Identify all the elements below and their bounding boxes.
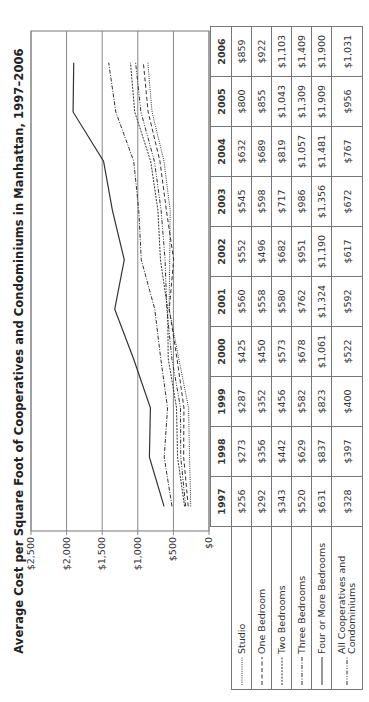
value-cell: $631	[312, 477, 332, 527]
value-cell: $560	[232, 277, 252, 327]
data-table: 1997199819992000200120022003200420052006…	[210, 26, 363, 690]
value-cell: $352	[252, 377, 272, 427]
value-cell: $356	[252, 427, 272, 477]
value-cell: $545	[232, 177, 252, 227]
value-cell: $859	[232, 27, 252, 77]
year-header: 1997	[211, 477, 232, 527]
value-cell: $1,031	[332, 27, 363, 77]
value-cell: $1,909	[312, 77, 332, 127]
legend-swatch-icon	[299, 657, 305, 685]
series-line	[130, 63, 184, 507]
series-name: All Cooperatives and Condominiums	[337, 534, 357, 654]
y-tick-label: $2,000	[61, 537, 72, 570]
legend-swatch-icon	[279, 657, 285, 685]
year-header-row: 1997199819992000200120022003200420052006	[211, 27, 232, 690]
value-cell: $1,061	[312, 327, 332, 377]
value-cell: $400	[332, 377, 363, 427]
y-tick-label: $2,500	[25, 537, 36, 570]
value-cell: $1,190	[312, 227, 332, 277]
series-name: One Bedroom	[257, 589, 267, 654]
value-cell: $1,103	[272, 27, 292, 77]
value-cell: $823	[312, 377, 332, 427]
year-header: 1999	[211, 377, 232, 427]
table-row: All Cooperatives and Condominiums$328$39…	[332, 27, 363, 690]
value-cell: $767	[332, 127, 363, 177]
y-tick-label: $1,000	[132, 537, 143, 570]
series-line	[148, 63, 191, 507]
value-cell: $1,481	[312, 127, 332, 177]
year-header: 1998	[211, 427, 232, 477]
value-cell: $522	[332, 327, 363, 377]
chart-page: Average Cost per Square Foot of Cooperat…	[0, 0, 369, 702]
value-cell: $986	[292, 177, 312, 227]
value-cell: $617	[332, 227, 363, 277]
table-corner	[211, 527, 232, 690]
year-header: 2002	[211, 227, 232, 277]
value-cell: $573	[272, 327, 292, 377]
series-legend-label: Four or More Bedrooms	[312, 527, 332, 690]
year-header: 2000	[211, 327, 232, 377]
series-legend-label: Two Bedrooms	[272, 527, 292, 690]
value-cell: $717	[272, 177, 292, 227]
value-cell: $682	[272, 227, 292, 277]
series-name: Two Bedrooms	[277, 585, 287, 654]
table-row: Two Bedrooms$343$442$456$573$580$682$717…	[272, 27, 292, 690]
value-cell: $837	[312, 427, 332, 477]
table-row: One Bedroom$292$356$352$450$558$496$598$…	[252, 27, 272, 690]
value-cell: $425	[232, 327, 252, 377]
value-cell: $672	[332, 177, 363, 227]
value-cell: $762	[292, 277, 312, 327]
value-cell: $273	[232, 427, 252, 477]
series-name: Three Bedrooms	[297, 576, 307, 654]
value-cell: $496	[252, 227, 272, 277]
legend-swatch-icon	[319, 657, 325, 685]
table-row: Four or More Bedrooms$631$837$823$1,061$…	[312, 27, 332, 690]
series-legend-label: Studio	[232, 527, 252, 690]
value-cell: $1,309	[292, 77, 312, 127]
series-legend-label: Three Bedrooms	[292, 527, 312, 690]
value-cell: $450	[252, 327, 272, 377]
year-header: 2004	[211, 127, 232, 177]
value-cell: $632	[232, 127, 252, 177]
value-cell: $1,043	[272, 77, 292, 127]
value-cell: $292	[252, 477, 272, 527]
value-cell: $558	[252, 277, 272, 327]
value-cell: $689	[252, 127, 272, 177]
value-cell: $1,356	[312, 177, 332, 227]
value-cell: $328	[332, 477, 363, 527]
series-legend-label: One Bedroom	[252, 527, 272, 690]
value-cell: $256	[232, 477, 252, 527]
value-cell: $1,900	[312, 27, 332, 77]
value-cell: $819	[272, 127, 292, 177]
value-cell: $582	[292, 377, 312, 427]
series-name: Studio	[237, 624, 247, 654]
y-tick-label: $1,500	[96, 537, 107, 570]
table-row: Studio$256$273$287$425$560$552$545$632$8…	[232, 27, 252, 690]
series-line	[136, 63, 186, 507]
value-cell: $855	[252, 77, 272, 127]
value-cell: $951	[292, 227, 312, 277]
value-cell: $800	[232, 77, 252, 127]
legend-swatch-icon	[239, 657, 245, 685]
value-cell: $1,324	[312, 277, 332, 327]
value-cell: $1,409	[292, 27, 312, 77]
value-cell: $397	[332, 427, 363, 477]
legend-swatch-icon	[259, 657, 265, 685]
table-row: Three Bedrooms$520$629$582$678$762$951$9…	[292, 27, 312, 690]
series-legend-label: All Cooperatives and Condominiums	[332, 527, 363, 690]
year-header: 2005	[211, 77, 232, 127]
year-header: 2003	[211, 177, 232, 227]
value-cell: $598	[252, 177, 272, 227]
value-cell: $956	[332, 77, 363, 127]
value-cell: $592	[332, 277, 363, 327]
series-name: Four or More Bedrooms	[317, 543, 327, 654]
value-cell: $629	[292, 427, 312, 477]
value-cell: $1,057	[292, 127, 312, 177]
value-cell: $678	[292, 327, 312, 377]
value-cell: $456	[272, 377, 292, 427]
value-cell: $343	[272, 477, 292, 527]
value-cell: $520	[292, 477, 312, 527]
value-cell: $287	[232, 377, 252, 427]
value-cell: $922	[252, 27, 272, 77]
value-cell: $552	[232, 227, 252, 277]
